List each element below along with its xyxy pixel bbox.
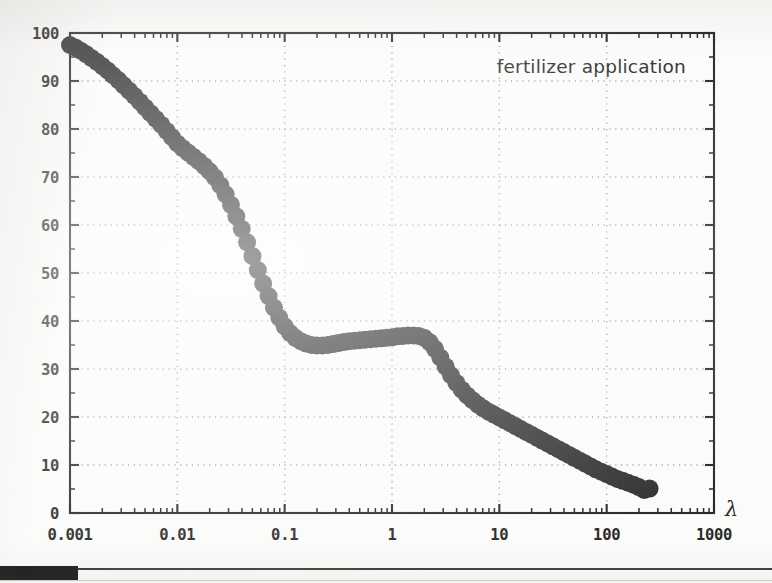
y-tick-label: 60 [41,217,59,235]
bottom-dark-tab [0,566,78,580]
y-tick-label: 80 [41,121,59,139]
y-tick-label: 50 [41,265,59,283]
chart-svg: 0.0010.010.11101001000 01020304050607080… [0,0,772,583]
screenshot-root: 0.0010.010.11101001000 01020304050607080… [0,0,772,583]
y-tick-label: 20 [41,409,59,427]
y-tick-label: 40 [41,313,59,331]
x-tick-label: 100 [593,526,620,544]
x-tick-label: 1 [387,526,396,544]
bottom-edge-strip [0,565,772,583]
y-tick-label: 90 [41,73,59,91]
x-tick-label: 1000 [696,526,732,544]
y-tick-label: 10 [41,457,59,475]
y-tick-label: 0 [50,505,59,523]
bottom-hairline [78,568,772,570]
x-tick-label: 0.001 [47,526,92,544]
x-tick-label: 0.01 [159,526,195,544]
chart-annotation: fertilizer application [497,56,686,77]
y-tick-label: 70 [41,169,59,187]
x-axis-label: λ [724,497,738,521]
chart-figure: 0.0010.010.11101001000 01020304050607080… [0,0,772,583]
bottom-hairline-secondary [0,580,772,581]
x-tick-label: 10 [490,526,508,544]
y-tick-label: 100 [32,25,59,43]
y-tick-label: 30 [41,361,59,379]
x-tick-label: 0.1 [271,526,298,544]
